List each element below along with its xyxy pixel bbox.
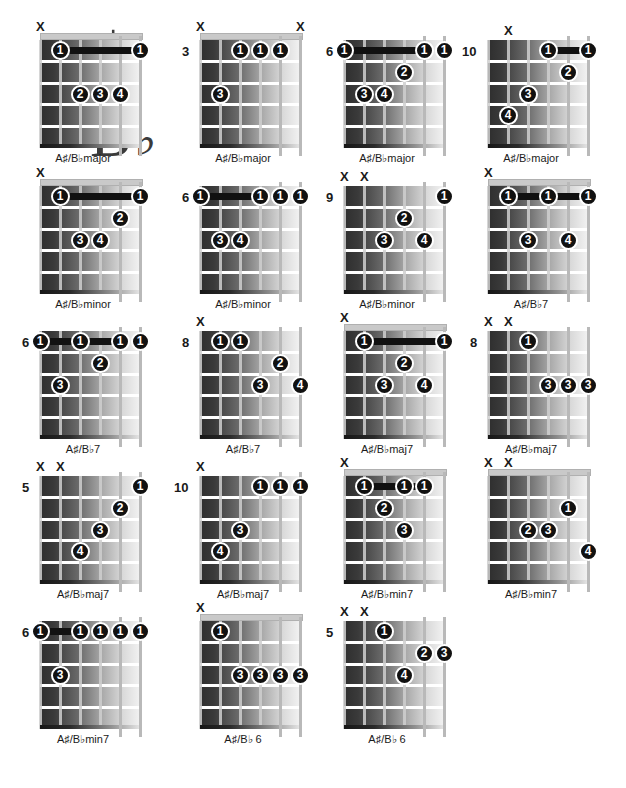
fret-position-number: 5 xyxy=(326,626,333,639)
fret-line xyxy=(40,706,140,709)
string-line xyxy=(507,476,510,584)
fret-position-number: 6 xyxy=(22,336,29,349)
finger-dot: 1 xyxy=(435,332,454,351)
string-mute-x-icon: X xyxy=(340,605,349,618)
finger-dot: 1 xyxy=(291,187,310,206)
fret-position-number: 9 xyxy=(326,191,333,204)
fret-line xyxy=(200,82,300,85)
fretboard-bottom-edge xyxy=(40,580,140,584)
finger-dot: 4 xyxy=(375,85,394,104)
finger-dot: 2 xyxy=(71,85,90,104)
chord-diagram: X11234A♯/B♭maj7 xyxy=(312,313,462,458)
nut-bar xyxy=(40,33,143,40)
string-line xyxy=(199,331,202,439)
finger-dot: 1 xyxy=(271,187,290,206)
finger-dot: 3 xyxy=(271,666,290,685)
barre-bar xyxy=(364,338,444,345)
fretboard-surface xyxy=(488,40,588,148)
fret-line xyxy=(488,496,588,499)
string-line xyxy=(199,40,202,148)
fret-line xyxy=(200,539,300,542)
finger-dot: 3 xyxy=(231,666,250,685)
fret-line xyxy=(344,103,444,106)
finger-dot: 1 xyxy=(499,187,518,206)
finger-dot: 2 xyxy=(375,499,394,518)
string-mute-x-icon: X xyxy=(196,20,205,33)
fret-position-number: 10 xyxy=(462,45,476,58)
fret-line xyxy=(200,496,300,499)
chord-diagram: XX31113A♯/B♭major xyxy=(168,22,318,167)
chord-diagram: 6111134A♯/B♭minor xyxy=(168,168,318,313)
nut-bar xyxy=(488,179,591,186)
string-mute-x-icon: X xyxy=(36,20,45,33)
nut-bar xyxy=(200,614,303,621)
string-mute-x-icon: X xyxy=(484,315,493,328)
finger-dot: 1 xyxy=(355,477,374,496)
fretboard-bottom-edge xyxy=(40,290,140,294)
finger-dot: 2 xyxy=(111,209,130,228)
finger-dot: 4 xyxy=(415,231,434,250)
finger-dot: 1 xyxy=(71,622,90,641)
fret-position-number: 6 xyxy=(326,45,333,58)
finger-dot: 1 xyxy=(131,332,150,351)
fret-line xyxy=(344,394,444,397)
string-line xyxy=(343,621,346,729)
fret-line xyxy=(200,416,300,419)
string-mute-x-icon: X xyxy=(36,166,45,179)
fret-position-number: 5 xyxy=(22,481,29,494)
finger-dot: 3 xyxy=(251,376,270,395)
fret-line xyxy=(344,539,444,542)
finger-dot: 3 xyxy=(519,85,538,104)
chord-name-label: A♯/B♭ 6 xyxy=(168,733,318,746)
chord-name-label: A♯/B♭maj7 xyxy=(168,588,318,601)
fret-line xyxy=(40,539,140,542)
fret-line xyxy=(200,394,300,397)
finger-dot: 1 xyxy=(539,41,558,60)
fret-line xyxy=(40,373,140,376)
finger-dot: 4 xyxy=(499,106,518,125)
finger-dot: 4 xyxy=(291,376,310,395)
finger-dot: 4 xyxy=(71,542,90,561)
string-line-extended xyxy=(119,472,122,592)
finger-dot: 3 xyxy=(539,376,558,395)
finger-dot: 1 xyxy=(251,41,270,60)
finger-dot: 1 xyxy=(251,187,270,206)
finger-dot: 1 xyxy=(111,622,130,641)
finger-dot: 1 xyxy=(375,622,394,641)
fret-line xyxy=(40,103,140,106)
finger-dot: 1 xyxy=(51,41,70,60)
nut-bar xyxy=(344,469,447,476)
finger-dot: 4 xyxy=(211,542,230,561)
nut-bar xyxy=(40,179,143,186)
fret-line xyxy=(40,249,140,252)
finger-dot: 2 xyxy=(559,63,578,82)
finger-dot: 1 xyxy=(355,332,374,351)
fretboard-bottom-edge xyxy=(200,290,300,294)
fretboard-bottom-edge xyxy=(488,144,588,148)
nut-bar xyxy=(488,469,591,476)
fret-line xyxy=(200,684,300,687)
chord-diagram: 6111234A♯/B♭major xyxy=(312,22,462,167)
finger-dot: 1 xyxy=(131,187,150,206)
finger-dot: 1 xyxy=(231,332,250,351)
string-line xyxy=(403,186,406,294)
string-mute-x-icon: X xyxy=(360,170,369,183)
fret-line xyxy=(200,561,300,564)
fret-line xyxy=(200,518,300,521)
finger-dot: 4 xyxy=(559,231,578,250)
finger-dot: 1 xyxy=(191,187,210,206)
fret-line xyxy=(200,271,300,274)
chord-name-label: A♯/B♭minor xyxy=(168,298,318,311)
finger-dot: 1 xyxy=(435,41,454,60)
chord-diagram: X1011134A♯/B♭maj7 xyxy=(168,458,318,603)
fret-line xyxy=(40,663,140,666)
finger-dot: 1 xyxy=(415,41,434,60)
fret-line xyxy=(344,561,444,564)
chord-diagram: XX91234A♯/B♭minor xyxy=(312,168,462,313)
string-mute-x-icon: X xyxy=(196,460,205,473)
chord-diagram: 6111113A♯/B♭min7 xyxy=(8,603,158,748)
string-line xyxy=(343,331,346,439)
fret-position-number: 3 xyxy=(182,45,189,58)
fret-line xyxy=(344,249,444,252)
fretboard-bottom-edge xyxy=(344,580,444,584)
